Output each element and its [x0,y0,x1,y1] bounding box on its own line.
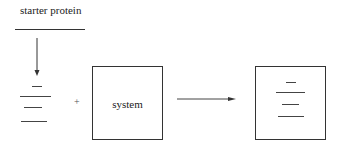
output-band [286,82,296,83]
system-label: system [93,98,162,110]
right-arrow-icon [177,97,236,101]
input-band [20,96,51,97]
output-band [276,92,305,93]
output-box [255,66,326,140]
down-arrow-icon [35,38,40,76]
plus-sign: + [74,96,80,107]
input-band [21,121,47,122]
output-band [282,104,299,105]
system-box: system [92,66,163,140]
output-band [278,116,304,117]
input-band [32,86,42,87]
input-band [24,107,42,108]
